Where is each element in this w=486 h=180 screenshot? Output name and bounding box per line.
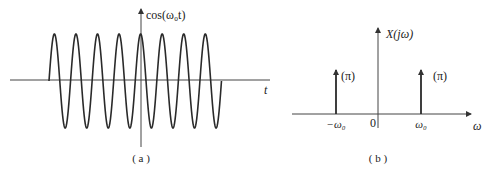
panel-a-caption: ( a ) xyxy=(132,152,150,165)
panel-b-frequency-domain: (π) (π) −ω₀ 0 ω₀ X(jω) ω ( b ) xyxy=(292,27,481,165)
figure: cos(ω₀t) t ( a ) (π) (π) −ω₀ 0 ω₀ X(jω) … xyxy=(0,0,486,180)
tick-label-origin: 0 xyxy=(370,116,376,130)
tick-label-neg-omega0: −ω₀ xyxy=(326,118,345,130)
tick-label-omega0: ω₀ xyxy=(415,118,427,130)
panel-a-time-domain: cos(ω₀t) t ( a ) xyxy=(10,8,270,165)
panel-b-x-label: ω xyxy=(473,119,481,133)
impulse-positive-weight: (π) xyxy=(433,69,447,83)
panel-a-x-label: t xyxy=(264,83,268,97)
cosine-waveform xyxy=(49,34,221,128)
panel-b-caption: ( b ) xyxy=(369,152,388,165)
panel-a-y-label: cos(ω₀t) xyxy=(146,8,185,22)
panel-b-y-label: X(jω) xyxy=(385,27,413,41)
impulse-negative-weight: (π) xyxy=(341,69,355,83)
